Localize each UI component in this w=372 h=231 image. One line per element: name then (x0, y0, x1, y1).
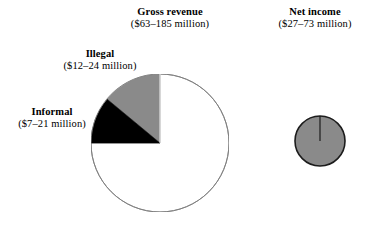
gross-revenue-pie-svg (91, 74, 229, 212)
slice-label-informal-range: ($7–21 million) (0, 118, 104, 130)
slice-label-informal: Informal ($7–21 million) (0, 106, 104, 131)
net-income-pie-chart (294, 115, 346, 167)
net-income-title: Net income (258, 6, 372, 18)
slice-label-illegal-title: Illegal (44, 48, 156, 60)
net-income-title-block: Net income ($27–73 million) (258, 6, 372, 31)
net-income-range: ($27–73 million) (258, 18, 372, 30)
gross-revenue-title: Gross revenue (104, 6, 236, 18)
gross-revenue-range: ($63–185 million) (104, 18, 236, 30)
slice-label-illegal-range: ($12–24 million) (44, 60, 156, 72)
slice-label-illegal: Illegal ($12–24 million) (44, 48, 156, 73)
slice-label-informal-title: Informal (0, 106, 104, 118)
gross-revenue-pie-chart (91, 74, 229, 212)
gross-revenue-title-block: Gross revenue ($63–185 million) (104, 6, 236, 31)
net-income-pie-svg (294, 115, 346, 167)
figure-canvas: Gross revenue ($63–185 million) Net inco… (0, 0, 372, 231)
